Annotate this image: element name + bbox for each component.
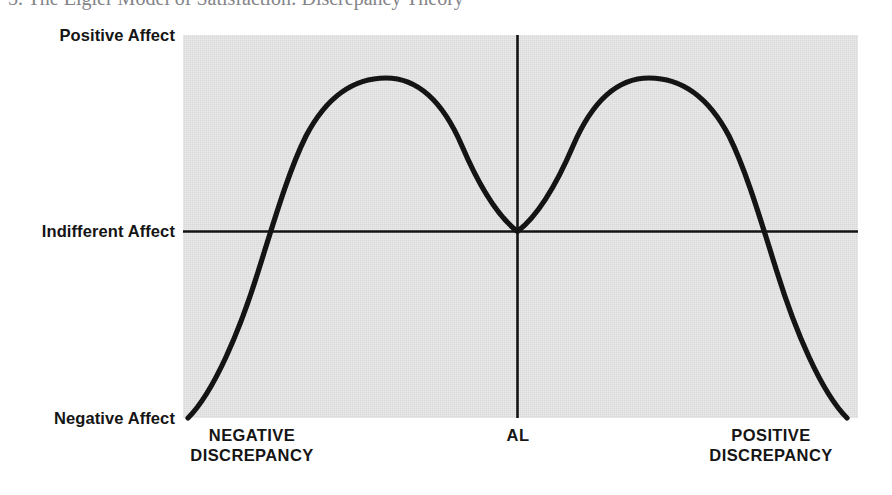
y-axis-label-positive-affect: Positive Affect	[0, 26, 175, 45]
x-axis-label-negative-line1: NEGATIVE	[209, 426, 295, 444]
x-axis-label-al: AL	[448, 425, 588, 445]
y-axis-label-indifferent-affect: Indifferent Affect	[0, 222, 175, 241]
x-axis-label-positive-line2: DISCREPANCY	[650, 445, 892, 465]
x-axis-label-negative-discrepancy: NEGATIVE DISCREPANCY	[122, 425, 382, 465]
affect-discrepancy-figure: 5. The Eigler Model of Satisfaction: Dis…	[0, 0, 892, 495]
x-axis-label-positive-line1: POSITIVE	[731, 426, 810, 444]
x-axis-label-al-line1: AL	[507, 426, 530, 444]
x-axis-label-negative-line2: DISCREPANCY	[122, 445, 382, 465]
x-axis-label-positive-discrepancy: POSITIVE DISCREPANCY	[650, 425, 892, 465]
